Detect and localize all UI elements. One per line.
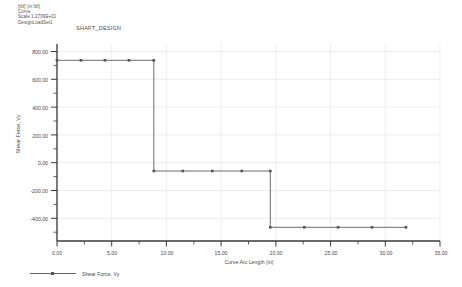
series-line xyxy=(57,60,406,227)
square-marker-icon xyxy=(51,272,54,275)
x-axis-ticks xyxy=(57,241,440,247)
axis-spines xyxy=(57,44,440,241)
series-shear-force-vy xyxy=(56,59,408,229)
legend-label-shear-force: Shear Force, Vy xyxy=(82,271,119,277)
chart-legend: Shear Force, Vy xyxy=(30,270,119,277)
vertical-gridlines xyxy=(57,44,440,241)
horizontal-gridlines xyxy=(57,52,440,219)
plot-canvas xyxy=(0,0,462,287)
series-markers xyxy=(56,59,408,229)
shear-force-chart: [lbf] (in lbf) Curve Scale 1.2709E+01 De… xyxy=(0,0,462,287)
y-axis-ticks xyxy=(51,52,57,233)
legend-line-sample xyxy=(30,270,76,277)
